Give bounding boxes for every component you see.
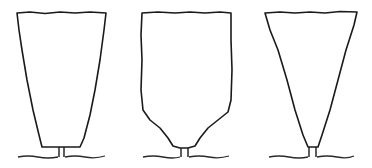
inverted-triangle-hedge: [265, 12, 357, 159]
hedge-illustration: [0, 0, 372, 168]
rounded-base-hedge: [141, 12, 232, 158]
hedge-shapes-drawing: [0, 0, 372, 168]
trapezoid-hedge: [17, 12, 106, 158]
